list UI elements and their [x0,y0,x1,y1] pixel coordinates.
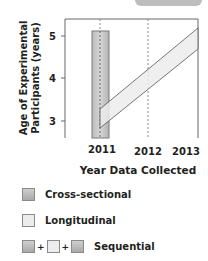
legend-label: Longitudinal [45,215,116,226]
x-tick-2013: 2013 [172,146,200,157]
legend-label: Cross-sectional [45,189,131,200]
y-tick-4: 4 [49,73,56,84]
cross-sectional-swatch [22,188,35,201]
y-axis-label-line1: Age of Experimental [18,21,29,136]
cross-sectional-swatch [71,240,84,253]
y-tick-3: 3 [49,116,56,127]
legend-item-cross-sectional: Cross-sectional [22,188,131,201]
plus-sign: + [37,242,45,252]
longitudinal-band [100,28,198,128]
x-tick-2012: 2012 [134,146,162,157]
y-axis-label-line2: Participants (years) [30,22,41,134]
longitudinal-swatch [22,214,35,227]
legend-item-sequential: + + Sequential [22,240,155,253]
legend-label: Sequential [94,241,155,252]
plus-sign: + [62,242,70,252]
x-tick-2011: 2011 [88,144,116,155]
y-tick-5: 5 [49,31,56,42]
cross-sectional-swatch [22,240,35,253]
legend-item-longitudinal: Longitudinal [22,214,116,227]
longitudinal-swatch [47,240,60,253]
x-axis-label: Year Data Collected [79,164,196,176]
